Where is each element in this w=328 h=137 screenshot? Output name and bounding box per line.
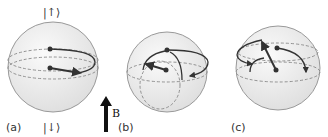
bloch-sphere-a [8, 22, 98, 112]
panel-label-c: (c) [231, 121, 246, 134]
b-field-arrowhead-icon [100, 96, 112, 106]
ket-up-label: |↑⟩ [43, 6, 60, 20]
panel-label-a: (a) [6, 121, 21, 134]
panel-b: (b) [118, 32, 208, 134]
bloch-sphere-c [236, 26, 320, 110]
b-field-label: B [112, 107, 120, 120]
ket-down-label: |↓⟩ [43, 121, 60, 135]
panel-c: (c) [231, 26, 320, 134]
bloch-sphere-figure: |↑⟩ |↓⟩ (a) B (b) (c) [0, 0, 328, 137]
panel-a: |↑⟩ |↓⟩ (a) [6, 6, 98, 135]
panel-label-b: (b) [118, 121, 134, 134]
